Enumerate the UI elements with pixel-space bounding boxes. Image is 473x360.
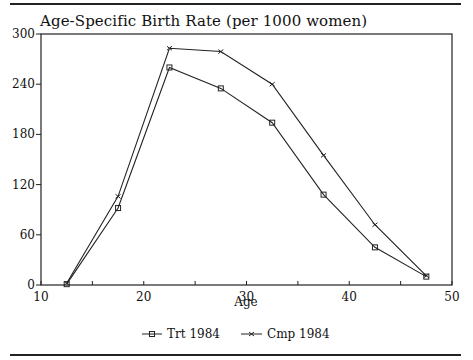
y-tick-label: 300 — [12, 27, 35, 41]
legend-label-trt: Trt 1984 — [167, 327, 220, 341]
series-layer — [64, 46, 429, 286]
y-tick-label: 120 — [12, 178, 35, 192]
y-tick-label: 60 — [20, 228, 35, 242]
chart-canvas: 0601201802403001020304050 Age Trt 1984 C… — [0, 0, 473, 360]
x-marker-icon — [270, 82, 275, 86]
legend-item-cmp: Cmp 1984 — [241, 327, 330, 341]
bottom-rule — [10, 354, 461, 356]
y-tick-label: 180 — [12, 127, 35, 141]
x-tick-label: 40 — [342, 290, 357, 304]
legend-item-trt: Trt 1984 — [142, 327, 220, 341]
plot-frame — [41, 34, 452, 285]
x-tick-label: 20 — [136, 290, 151, 304]
x-axis-label: Age — [233, 295, 257, 309]
x-marker-icon — [321, 153, 326, 157]
legend: Trt 1984 Cmp 1984 — [142, 327, 330, 341]
x-tick-label: 50 — [444, 290, 459, 304]
y-tick-label: 240 — [12, 77, 35, 91]
legend-label-cmp: Cmp 1984 — [267, 327, 330, 341]
x-tick-label: 10 — [33, 290, 48, 304]
x-marker-icon — [372, 223, 377, 227]
series-trt-1984 — [64, 65, 429, 287]
